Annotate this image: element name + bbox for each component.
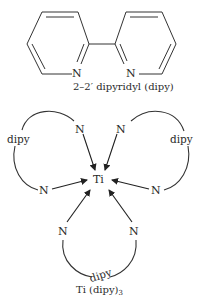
nitrogen-right: N bbox=[151, 184, 161, 197]
ligand-bottom: dipy N N bbox=[58, 225, 139, 284]
complex-title-subscript: 3 bbox=[119, 289, 123, 297]
dipyridyl-titanium-figure: N N 2–2′ dipyridyl (dipy) Ti dipy N bbox=[0, 0, 197, 302]
nitrogen-left: N bbox=[39, 184, 49, 197]
ligand-arc-bottom-right bbox=[110, 240, 136, 277]
ligand-label-upper-left: dipy bbox=[7, 133, 30, 145]
ligand-arc-upper-right-top bbox=[131, 111, 184, 131]
ligand-arc-upper-left-bottom bbox=[14, 146, 38, 190]
nitrogen-bottom-right: N bbox=[129, 225, 139, 238]
nitrogen-bottom-left: N bbox=[58, 225, 68, 238]
ligand-arc-bottom-left bbox=[63, 240, 92, 277]
complex-title: Ti (dipy)3 bbox=[76, 284, 123, 297]
left-pyridine-ring bbox=[27, 12, 89, 74]
titanium-center: Ti bbox=[93, 173, 104, 186]
arrow-bottom-right-to-ti bbox=[109, 190, 132, 222]
ligand-label-upper-right: dipy bbox=[170, 133, 193, 145]
dipyridyl-caption: 2–2′ dipyridyl (dipy) bbox=[73, 81, 174, 92]
ligand-arc-upper-left-top bbox=[22, 111, 74, 130]
arrow-bottom-left-to-ti bbox=[67, 190, 90, 222]
ligand-upper-left: dipy N N bbox=[7, 111, 85, 197]
ligand-label-bottom: dipy bbox=[88, 266, 113, 284]
ti-dipy-complex: Ti dipy N N dipy N N dipy N N bbox=[7, 111, 193, 297]
arrow-upper-left-to-ti bbox=[83, 134, 95, 170]
arrow-upper-right-to-ti bbox=[105, 134, 117, 170]
nitrogen-upper-right: N bbox=[116, 123, 126, 136]
right-ring-nitrogen: N bbox=[126, 67, 136, 80]
dipyridyl-structure: N N 2–2′ dipyridyl (dipy) bbox=[27, 12, 176, 92]
arrow-right-to-ti bbox=[112, 180, 149, 189]
right-pyridine-ring bbox=[115, 12, 176, 74]
left-ring-nitrogen: N bbox=[72, 67, 82, 80]
arrow-left-to-ti bbox=[52, 180, 87, 189]
ligand-arc-upper-right-bottom bbox=[164, 146, 189, 190]
complex-title-main: Ti (dipy) bbox=[76, 284, 119, 295]
